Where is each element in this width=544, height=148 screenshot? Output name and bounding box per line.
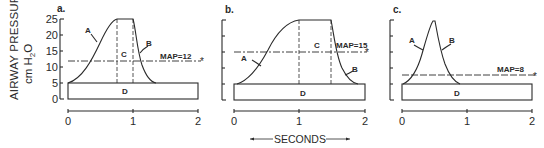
panel-c-x-tick-2: 2 xyxy=(529,115,535,127)
panel-a-map-label: MAP=12 xyxy=(160,52,192,61)
panel-b-label-b: B xyxy=(352,65,358,74)
panel-a-label-d: D xyxy=(122,87,128,96)
panel-b-title: b. xyxy=(225,4,234,15)
panel-c-region-d xyxy=(402,84,532,100)
panel-b-x-tick-2: 2 xyxy=(362,115,368,127)
panel-c-asterisk: * xyxy=(533,71,537,82)
panel-c-map-label: MAP=8 xyxy=(497,65,524,74)
panel-a xyxy=(60,19,201,113)
y-tick-25: 25 xyxy=(46,13,58,25)
panel-c-x-tick-1: 1 xyxy=(464,115,470,127)
panel-c-x-tick-0: 0 xyxy=(399,115,405,127)
panel-b-label-c: C xyxy=(314,41,320,50)
panel-c-leader-a xyxy=(414,45,423,50)
panel-a-x-tick-0: 0 xyxy=(65,115,71,127)
panel-a-region-d xyxy=(68,83,198,99)
panel-c-label-b: B xyxy=(449,36,455,45)
y-tick-10: 10 xyxy=(46,61,58,73)
panel-a-label-a: A xyxy=(85,26,91,35)
panel-a-label-c: C xyxy=(121,50,127,59)
panel-a-leader-a xyxy=(91,34,97,42)
panel-c-label-a: A xyxy=(409,36,415,45)
y-tick-0: 0 xyxy=(52,93,58,105)
y-tick-20: 20 xyxy=(46,29,58,41)
airway-pressure-figure: AIRWAY PRESSURE cm H2O xyxy=(0,0,544,148)
diagram-svg: 25 20 15 10 5 0 a. b. c. A B C D MAP=12 … xyxy=(0,0,544,148)
panel-a-x-tick-1: 1 xyxy=(130,115,136,127)
panel-b-asterisk: * xyxy=(365,47,369,58)
panel-b-x-tick-0: 0 xyxy=(231,115,237,127)
y-tick-5: 5 xyxy=(52,77,58,89)
panel-a-asterisk: * xyxy=(200,56,204,67)
panel-b-label-a: A xyxy=(241,54,247,63)
panel-b-label-d: D xyxy=(300,89,306,98)
panel-b-map-label: MAP=15 xyxy=(336,41,368,50)
panel-a-label-b: B xyxy=(146,39,152,48)
x-axis-label: SECONDS xyxy=(274,133,326,145)
panel-b xyxy=(222,20,367,141)
panel-b-x-tick-1: 1 xyxy=(296,115,302,127)
panel-a-pressure-curve xyxy=(68,19,156,83)
panel-c-title: c. xyxy=(393,4,402,15)
panel-a-y-tick-labels: 25 20 15 10 5 0 xyxy=(46,13,58,105)
panel-a-x-tick-2: 2 xyxy=(195,115,201,127)
panel-b-y-ticks xyxy=(222,20,226,100)
y-tick-15: 15 xyxy=(46,45,58,57)
panel-c-label-d: D xyxy=(454,89,460,98)
panel-a-y-ticks xyxy=(60,19,64,99)
panel-c-y-ticks xyxy=(390,20,394,100)
panel-a-title: a. xyxy=(57,3,66,14)
x-tick-labels: 0 1 2 0 1 2 0 1 2 xyxy=(65,115,535,127)
